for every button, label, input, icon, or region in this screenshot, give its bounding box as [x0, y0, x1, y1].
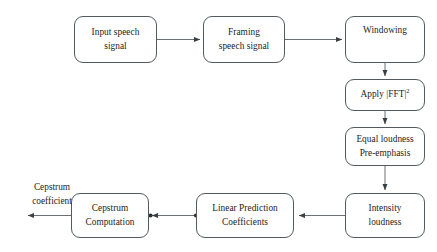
node-windowing[interactable]: Windowing	[345, 16, 425, 63]
flowchart-canvas: Input speechsignal Framingspeech signal …	[0, 0, 437, 252]
node-label-linear-prediction-coefficients: Linear PredictionCoefficients	[209, 202, 281, 228]
node-label-equal-loudness-preemphasis: Equal loudnessPre-emphasis	[353, 133, 416, 159]
node-label-input-speech-signal: Input speechsignal	[89, 26, 143, 52]
node-apply-fft-squared[interactable]: Apply |FFT|2	[345, 79, 425, 111]
node-framing-speech-signal[interactable]: Framingspeech signal	[203, 16, 285, 63]
node-linear-prediction-coefficients[interactable]: Linear PredictionCoefficients	[196, 193, 294, 238]
node-label-intensity-loudness: Intensityloudness	[366, 202, 405, 228]
fft-exponent: 2	[406, 87, 409, 94]
junction-dot-cepstrum-tail	[148, 213, 152, 217]
cepstrum-coefficient-text: Cepstrumcoefficient	[32, 182, 72, 205]
cepstrum-coefficient-label: Cepstrumcoefficient	[12, 168, 92, 208]
node-equal-loudness-preemphasis[interactable]: Equal loudnessPre-emphasis	[345, 127, 425, 166]
node-input-speech-signal[interactable]: Input speechsignal	[74, 16, 157, 63]
node-label-apply-fft-squared: Apply |FFT|2	[357, 88, 412, 101]
node-intensity-loudness[interactable]: Intensityloudness	[345, 193, 425, 238]
node-label-windowing: Windowing	[360, 24, 410, 37]
node-label-framing-speech-signal: Framingspeech signal	[216, 26, 272, 52]
